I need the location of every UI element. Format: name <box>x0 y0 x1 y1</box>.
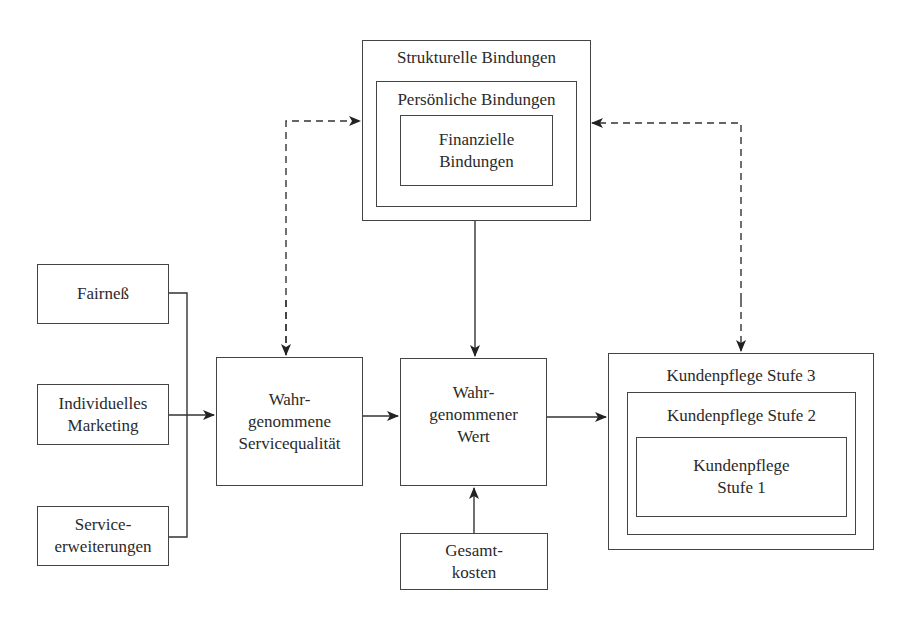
perceived-value-label: Wahr- genommener Wert <box>401 359 546 471</box>
input-label: Fairneß <box>38 265 168 323</box>
customer-care-level3-label: Kundenpflege Stufe 3 <box>609 365 873 387</box>
customer-care-level2-label: Kundenpflege Stufe 2 <box>628 405 855 427</box>
input-box-service-extensions: Service- erweiterungen <box>37 506 169 566</box>
personal-bindings-label: Persönliche Bindungen <box>377 89 576 111</box>
dashed-link-quality-bindings <box>286 121 360 355</box>
input-box-fairness: Fairneß <box>37 264 169 324</box>
input-box-individual-marketing: Individuelles Marketing <box>37 384 169 445</box>
dashed-link-care-bindings <box>592 123 741 300</box>
perceived-value-box: Wahr- genommener Wert <box>400 358 547 486</box>
customer-care-level1-box: Kundenpflege Stufe 1 <box>636 437 847 517</box>
diagram-canvas: Strukturelle Bindungen Persönliche Bindu… <box>0 0 924 620</box>
input-label: Individuelles Marketing <box>38 385 168 444</box>
structural-bindings-label: Strukturelle Bindungen <box>363 47 590 69</box>
total-costs-label: Gesamt- kosten <box>401 534 547 589</box>
financial-bindings-label: Finanzielle Bindungen <box>401 116 552 185</box>
total-costs-box: Gesamt- kosten <box>400 533 548 590</box>
perceived-service-quality-box: Wahr- genommene Servicequalität <box>216 357 363 486</box>
customer-care-level1-label: Kundenpflege Stufe 1 <box>637 438 846 516</box>
financial-bindings-box: Finanzielle Bindungen <box>400 115 553 186</box>
input-label: Service- erweiterungen <box>38 507 168 565</box>
perceived-service-quality-label: Wahr- genommene Servicequalität <box>217 358 362 485</box>
